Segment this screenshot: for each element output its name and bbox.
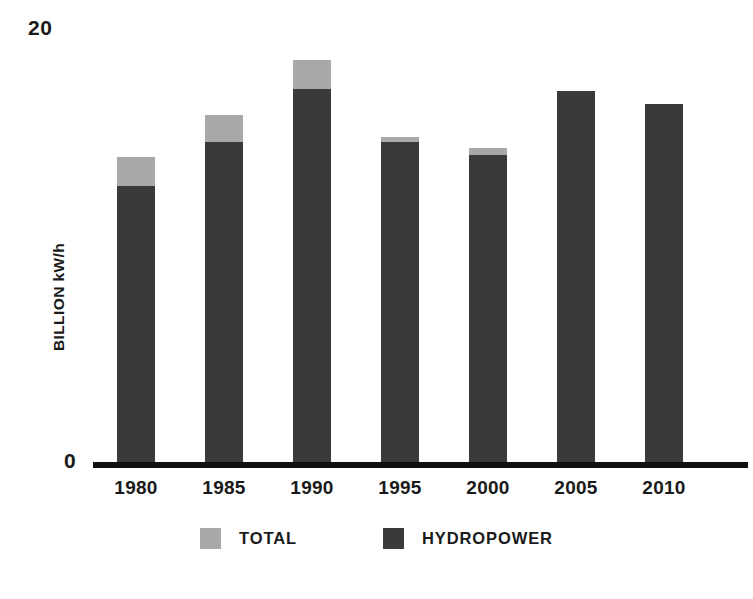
legend-swatch-icon: [383, 528, 404, 549]
bar-segment-total: [205, 115, 243, 142]
bar-group: [381, 137, 419, 463]
legend-label: HYDROPOWER: [422, 530, 553, 547]
y-axis-title: BILLION kW/h: [50, 202, 68, 392]
bar-group: [645, 104, 683, 463]
bar-group: [293, 60, 331, 463]
x-axis-tick-label: 2005: [532, 477, 620, 500]
chart-legend: TOTALHYDROPOWER: [0, 528, 753, 549]
x-axis-line: [93, 462, 748, 468]
bar-group: [469, 148, 507, 463]
x-axis-tick-label: 1995: [356, 477, 444, 500]
bar-chart: 20 BILLION kW/h 0 1980198519901995200020…: [0, 0, 753, 599]
bar-segment-hydropower: [117, 186, 155, 463]
bar-group: [117, 157, 155, 463]
x-axis-tick-labels: 1980198519901995200020052010: [93, 477, 753, 507]
bar-group: [205, 115, 243, 463]
legend-label: TOTAL: [239, 530, 297, 547]
legend-item[interactable]: TOTAL: [200, 528, 297, 549]
y-axis-zero-label: 0: [64, 450, 76, 471]
plot-area: [93, 20, 753, 463]
bar-group: [557, 91, 595, 463]
bar-segment-hydropower: [205, 142, 243, 463]
bar-segment-total: [469, 148, 507, 155]
x-axis-tick-label: 2000: [444, 477, 532, 500]
x-axis-tick-label: 1990: [268, 477, 356, 500]
bar-segment-total: [293, 60, 331, 89]
x-axis-tick-label: 1980: [92, 477, 180, 500]
legend-item[interactable]: HYDROPOWER: [383, 528, 553, 549]
x-axis-tick-label: 2010: [620, 477, 708, 500]
bar-segment-hydropower: [469, 155, 507, 463]
bar-segment-hydropower: [645, 104, 683, 463]
legend-swatch-icon: [200, 528, 221, 549]
bar-segment-hydropower: [557, 91, 595, 463]
bar-segment-hydropower: [381, 142, 419, 463]
bar-segment-total: [117, 157, 155, 186]
y-axis-max-label: 20: [28, 17, 52, 38]
x-axis-tick-label: 1985: [180, 477, 268, 500]
bar-segment-hydropower: [293, 89, 331, 463]
